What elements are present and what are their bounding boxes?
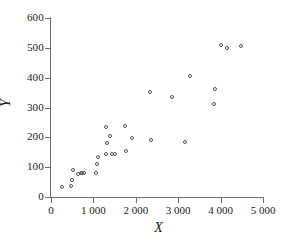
data-point bbox=[82, 171, 86, 175]
data-point bbox=[108, 134, 112, 138]
data-point bbox=[69, 184, 73, 188]
y-tick-label-text: 100 bbox=[0, 161, 44, 172]
data-point bbox=[183, 140, 187, 144]
data-point bbox=[148, 90, 152, 94]
y-tick-label-text: 400 bbox=[0, 72, 44, 83]
data-point bbox=[105, 141, 109, 145]
data-point bbox=[94, 171, 98, 175]
y-tick-label: 400 bbox=[0, 72, 44, 83]
data-point bbox=[70, 178, 74, 182]
y-tick-mark bbox=[45, 78, 50, 79]
x-tick-mark bbox=[263, 198, 264, 203]
y-tick-mark bbox=[45, 167, 50, 168]
data-point bbox=[239, 44, 243, 48]
data-point bbox=[60, 185, 64, 189]
y-tick-label: 0 bbox=[0, 191, 44, 202]
y-tick-mark bbox=[45, 137, 50, 138]
data-point bbox=[188, 74, 192, 78]
data-point bbox=[170, 95, 174, 99]
data-point bbox=[219, 43, 223, 47]
data-point bbox=[123, 124, 127, 128]
y-tick-label: 200 bbox=[0, 131, 44, 142]
data-point bbox=[130, 136, 134, 140]
x-tick-label: 5 000 bbox=[251, 205, 276, 216]
data-point bbox=[95, 162, 99, 166]
data-point bbox=[149, 138, 153, 142]
y-tick-label: 500 bbox=[0, 42, 44, 53]
x-tick-mark bbox=[136, 198, 137, 203]
scatter-chart-figure: 0100200300400500600 01 0002 0003 0004 00… bbox=[0, 0, 285, 243]
y-tick-mark bbox=[45, 197, 50, 198]
y-tick-mark bbox=[45, 48, 50, 49]
data-point bbox=[225, 46, 229, 50]
y-tick-label-text: 0 bbox=[0, 191, 44, 202]
x-tick-mark bbox=[51, 198, 52, 203]
data-point bbox=[104, 125, 108, 129]
data-point bbox=[213, 87, 217, 91]
y-tick-label-text: 500 bbox=[0, 42, 44, 53]
y-axis-title: Y bbox=[0, 99, 13, 107]
x-tick-label: 0 bbox=[48, 205, 54, 216]
y-tick-label: 600 bbox=[0, 12, 44, 23]
data-point bbox=[124, 149, 128, 153]
y-tick-mark bbox=[45, 108, 50, 109]
y-tick-label-text: 600 bbox=[0, 12, 44, 23]
x-tick-label: 4 000 bbox=[208, 205, 233, 216]
x-axis-title: X bbox=[0, 221, 285, 235]
y-tick-label-text: 200 bbox=[0, 131, 44, 142]
data-point bbox=[113, 152, 117, 156]
x-tick-label: 1 000 bbox=[81, 205, 106, 216]
x-tick-mark bbox=[178, 198, 179, 203]
x-axis-line bbox=[50, 197, 264, 198]
plot-area bbox=[51, 18, 263, 197]
x-tick-label: 2 000 bbox=[123, 205, 148, 216]
y-tick-label: 100 bbox=[0, 161, 44, 172]
x-tick-mark bbox=[93, 198, 94, 203]
data-point bbox=[212, 102, 216, 106]
x-tick-label: 3 000 bbox=[166, 205, 191, 216]
y-tick-mark bbox=[45, 18, 50, 19]
x-tick-mark bbox=[221, 198, 222, 203]
data-point bbox=[96, 155, 100, 159]
data-point bbox=[104, 152, 108, 156]
data-point bbox=[71, 168, 75, 172]
